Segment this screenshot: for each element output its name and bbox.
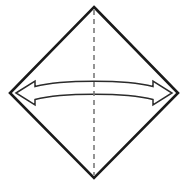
fold-diagram-svg [0, 0, 188, 188]
figure-container [0, 0, 188, 188]
